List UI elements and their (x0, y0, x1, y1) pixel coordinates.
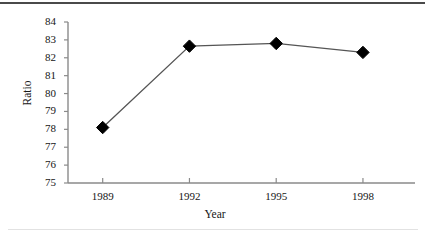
x-axis-tick-label: 1989 (83, 191, 123, 202)
x-axis-tick-label: 1995 (256, 191, 296, 202)
data-point-marker (357, 46, 369, 58)
data-series-group (97, 37, 370, 133)
y-axis-tick-label: 79 (34, 105, 56, 116)
y-axis-title: Ratio (21, 63, 33, 123)
data-point-marker (270, 37, 282, 49)
series-line-ratio (103, 43, 363, 127)
x-axis-title: Year (180, 208, 250, 220)
y-axis-tick-label: 75 (34, 177, 56, 188)
y-axis-tick-label: 77 (34, 141, 56, 152)
x-axis-tick-label: 1992 (169, 191, 209, 202)
y-axis-tick-label: 81 (34, 70, 56, 81)
y-axis-tick-label: 82 (34, 52, 56, 63)
x-axis-tick-label: 1998 (343, 191, 383, 202)
y-axis-tick-label: 80 (34, 88, 56, 99)
chart-figure: 75767778798081828384 1989199219951998 Ra… (0, 0, 425, 238)
y-axis-tick-label: 76 (34, 159, 56, 170)
y-axis-tick-label: 84 (34, 16, 56, 27)
line-chart-plot (0, 0, 425, 238)
y-axis-tick-label: 83 (34, 34, 56, 45)
y-axis-tick-label: 78 (34, 123, 56, 134)
